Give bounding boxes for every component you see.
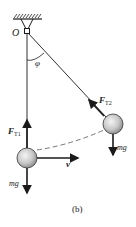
figure-caption: (b) [72,205,83,214]
slanted-string [28,33,106,117]
tension-t1-subscript: T1 [14,131,21,137]
tension-t2-subscript: T2 [105,100,112,106]
pendulum-diagram [0,0,136,227]
pivot-label: O [12,28,19,38]
tension-t2-label: FT2 [99,96,112,106]
tension-t1-label: FT1 [8,127,21,137]
ball-displaced [103,114,123,134]
velocity-label: v [66,160,70,169]
weight-displaced-label: mg [117,144,127,152]
weight-bottom-label: mg [9,180,19,188]
trajectory-arc [37,130,104,150]
ball-bottom [17,148,37,168]
angle-label: φ [35,59,40,68]
